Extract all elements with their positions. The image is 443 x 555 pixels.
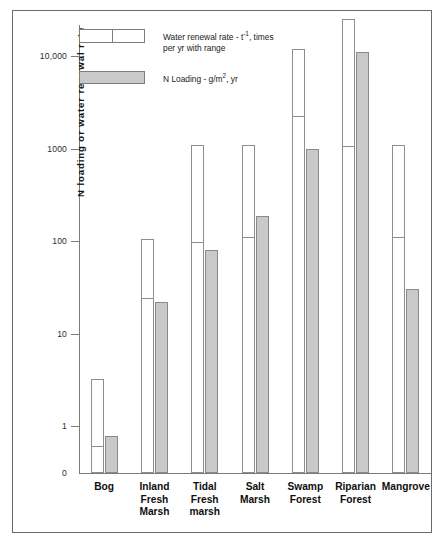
y-tick-mark [71, 334, 79, 335]
bar-water-renewal-rate [191, 145, 204, 473]
x-category-label-line: Riparian [330, 481, 380, 494]
y-tick-label: 0 [62, 468, 67, 478]
y-tick-label: 1 [62, 421, 67, 431]
bar-range-divider [293, 116, 304, 117]
bar-water-renewal-rate [242, 145, 255, 473]
x-category-label: InlandFreshMarsh [129, 481, 179, 519]
legend-text-suffix: , yr [226, 74, 238, 84]
legend-label-n-loading: N Loading - g/m2, yr [163, 70, 238, 85]
bar-n-loading [105, 436, 118, 473]
figure-frame: 10,00010001001010 N loading or water ren… [12, 10, 432, 533]
x-category-label: SwampForest [280, 481, 330, 506]
bar-range-divider [192, 242, 203, 243]
legend-text-line2: per yr with range [163, 43, 274, 54]
bar-range-divider [142, 298, 153, 299]
x-category-label: RiparianForest [330, 481, 380, 506]
bar-n-loading [256, 216, 269, 473]
x-category-label-line: Bog [79, 481, 129, 494]
x-axis-line [79, 473, 431, 474]
bar-range-divider [92, 446, 103, 447]
y-tick-mark [71, 426, 79, 427]
y-tick-mark [71, 241, 79, 242]
x-axis-category-labels: BogInlandFreshMarshTidalFreshmarshSaltMa… [79, 481, 431, 539]
legend-text-prefix: N Loading - g/m [163, 74, 223, 84]
x-category-label-line: Swamp [280, 481, 330, 494]
bar-water-renewal-rate [141, 239, 154, 473]
bar-n-loading [306, 149, 319, 473]
y-tick-label: 10,000 [40, 51, 67, 61]
bar-range-divider [243, 237, 254, 238]
white-range-swatch [79, 29, 145, 43]
x-category-label: TidalFreshmarsh [180, 481, 230, 519]
x-category-label-line: Salt [230, 481, 280, 494]
legend-label-water-renewal-rate: Water renewal rate - t-1, times per yr w… [163, 28, 274, 55]
y-tick-label: 100 [52, 236, 67, 246]
bar-water-renewal-rate [91, 379, 104, 473]
bar-n-loading [406, 289, 419, 473]
x-category-label-line: Fresh [129, 494, 179, 507]
x-category-label-line: Forest [330, 494, 380, 507]
bar-range-divider [393, 237, 404, 238]
bar-n-loading [356, 52, 369, 473]
x-category-label-line: Marsh [230, 494, 280, 507]
x-category-label: Bog [79, 481, 129, 494]
y-tick-label: 1000 [47, 144, 67, 154]
x-category-label-line: Forest [280, 494, 330, 507]
legend-text-suffix: , times [249, 32, 274, 42]
x-category-label: SaltMarsh [230, 481, 280, 506]
x-category-label-line: Marsh [129, 506, 179, 519]
x-category-label: Mangrove [381, 481, 431, 494]
gray-swatch [79, 71, 145, 84]
legend: Water renewal rate - t-1, times per yr w… [79, 25, 379, 97]
bar-water-renewal-rate [392, 145, 405, 473]
figure: 10,00010001001010 N loading or water ren… [0, 0, 443, 555]
bar-n-loading [205, 250, 218, 473]
bar-n-loading [155, 302, 168, 473]
x-category-label-line: Tidal [180, 481, 230, 494]
swatch-divider [112, 30, 113, 42]
bar-range-divider [343, 146, 354, 147]
bar-water-renewal-rate [292, 49, 305, 473]
x-category-label-line: Mangrove [381, 481, 431, 494]
x-category-label-line: Fresh [180, 494, 230, 507]
y-tick-label: 10 [57, 329, 67, 339]
x-category-label-line: marsh [180, 506, 230, 519]
legend-text-prefix: Water renewal rate - t [163, 32, 243, 42]
y-axis-tick-labels: 10,00010001001010 [21, 25, 67, 474]
x-category-label-line: Inland [129, 481, 179, 494]
